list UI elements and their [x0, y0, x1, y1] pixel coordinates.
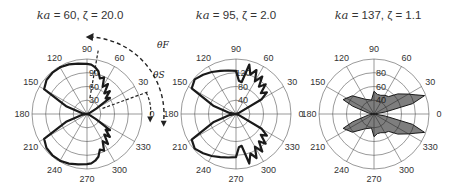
angle-tick-label: 270 — [228, 174, 243, 184]
angle-tick-label: 60 — [401, 53, 411, 63]
angle-tick-label: 120 — [334, 53, 349, 63]
angle-tick-label: 60 — [114, 53, 124, 63]
angle-tick-label: 210 — [172, 142, 187, 152]
angle-tick-label: 60 — [263, 53, 273, 63]
polar-plot-2: 03060901201501802102402703003304080120 — [163, 44, 303, 184]
angle-tick-label: 210 — [23, 142, 38, 152]
angle-tick-label: 120 — [196, 53, 211, 63]
theta-s-label: θS — [153, 70, 165, 80]
grid-spoke — [209, 114, 237, 162]
theta-s-arc — [146, 93, 151, 117]
angle-tick-label: 180 — [301, 109, 316, 119]
angle-tick-label: 90 — [82, 44, 92, 54]
angle-tick-label: 270 — [366, 174, 381, 184]
angle-tick-label: 180 — [14, 109, 29, 119]
angle-tick-label: 330 — [423, 142, 438, 152]
angle-tick-label: 210 — [310, 142, 325, 152]
radial-tick-label: 60 — [376, 82, 386, 92]
angle-tick-label: 30 — [287, 77, 297, 87]
angle-tick-label: 90 — [369, 44, 379, 54]
grid-spoke — [209, 66, 237, 114]
theta-f-label: θF — [157, 40, 169, 50]
angle-tick-label: 240 — [196, 165, 211, 175]
angle-tick-label: 150 — [310, 77, 325, 87]
radial-tick-label: 40 — [238, 95, 248, 105]
angle-tick-label: 90 — [231, 44, 241, 54]
arrowhead-icon — [147, 116, 153, 122]
angle-tick-label: 240 — [334, 165, 349, 175]
angle-tick-label: 120 — [47, 53, 62, 63]
radial-tick-label: 80 — [238, 82, 248, 92]
angle-tick-label: 30 — [138, 77, 148, 87]
angle-tick-label: 300 — [261, 165, 276, 175]
angle-tick-label: 150 — [172, 77, 187, 87]
angle-tick-label: 270 — [79, 174, 94, 184]
angle-tick-label: 0 — [436, 109, 441, 119]
grid-spoke — [60, 66, 88, 114]
angle-tick-label: 300 — [399, 165, 414, 175]
radial-tick-label: 60 — [89, 82, 99, 92]
arrowhead-icon — [161, 121, 167, 127]
polar-plot-1: 0306090120150180210240270300330306090θFθ… — [14, 33, 169, 184]
radial-tick-label: 80 — [376, 68, 386, 78]
grid-spoke — [60, 114, 88, 162]
angle-tick-label: 30 — [425, 77, 435, 87]
angle-tick-label: 330 — [285, 142, 300, 152]
polar-plots: 0306090120150180210240270300330306090θFθ… — [0, 0, 451, 193]
arrowhead-icon — [86, 33, 94, 41]
angle-tick-label: 150 — [23, 77, 38, 87]
angle-tick-label: 300 — [112, 165, 127, 175]
angle-tick-label: 330 — [136, 142, 151, 152]
polar-plot-3: 0306090120150180210240270300330406080 — [301, 44, 441, 184]
angle-tick-label: 180 — [163, 109, 178, 119]
angle-tick-label: 240 — [47, 165, 62, 175]
